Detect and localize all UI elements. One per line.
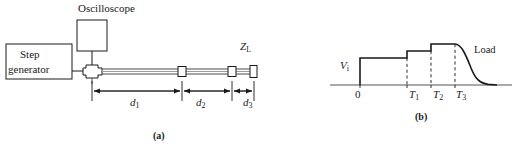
load-impedance-label: ZL xyxy=(240,41,251,54)
incident-voltage-subscript: i xyxy=(347,64,349,73)
time-tick-subscript-t1: 1 xyxy=(415,93,419,102)
time-tick-label-t2: T2 xyxy=(433,89,443,102)
oscilloscope-label: Oscilloscope xyxy=(78,3,135,14)
time-tick-subscript-t2: 2 xyxy=(439,93,443,102)
time-tick-subscript-t3: 3 xyxy=(462,93,466,102)
incident-voltage-label: Vi xyxy=(340,60,349,73)
barrel-connector-1 xyxy=(178,67,186,77)
figure-svg xyxy=(0,0,520,151)
figure-container: Oscilloscope Step generator ZL d1 d2 d3 … xyxy=(0,0,520,151)
load-impedance-subscript: L xyxy=(246,45,251,54)
dimension-label-d3: d3 xyxy=(243,97,252,110)
panel-a-caption: (a) xyxy=(153,131,165,141)
step-generator-label-line1: Step xyxy=(20,49,40,60)
dimension-subscript-d3: 3 xyxy=(249,101,253,110)
barrel-connector-2 xyxy=(228,67,236,77)
load-termination xyxy=(250,66,257,78)
step-generator-label-line2: generator xyxy=(8,64,50,75)
time-tick-label-t3: T3 xyxy=(456,89,466,102)
panel-a-diagram xyxy=(6,20,257,101)
tee-connector xyxy=(83,65,102,84)
dimension-label-d2: d2 xyxy=(196,97,205,110)
time-tick-label-0: 0 xyxy=(355,89,361,100)
oscilloscope-box xyxy=(77,20,107,51)
load-response-label: Load xyxy=(474,45,496,56)
panel-b-caption: (b) xyxy=(415,112,427,122)
dimension-subscript-d1: 1 xyxy=(136,101,140,110)
dimension-subscript-d2: 2 xyxy=(202,101,206,110)
incident-voltage-symbol: V xyxy=(340,59,347,71)
dimension-label-d1: d1 xyxy=(130,97,139,110)
time-tick-label-t1: T1 xyxy=(409,89,419,102)
